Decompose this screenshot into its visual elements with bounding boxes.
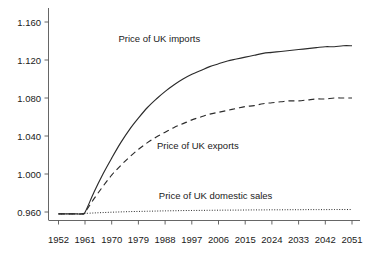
y-tick-label-0960: 0.960 [17, 207, 41, 218]
x-tick-label-2033: 2033 [288, 234, 309, 245]
x-tick-label-1979: 1979 [128, 234, 149, 245]
line-chart: 1.160 1.120 1.080 1.040 1.000 0.960 1952… [0, 0, 367, 260]
x-tick-label-1952: 1952 [48, 234, 69, 245]
chart-container: 1.160 1.120 1.080 1.040 1.000 0.960 1952… [0, 0, 367, 260]
annotation-imports: Price of UK imports [118, 33, 200, 44]
annotation-domestic-sales: Price of UK domestic sales [159, 190, 273, 201]
y-tick-label-1120: 1.120 [17, 55, 41, 66]
annotation-exports: Price of UK exports [157, 140, 239, 151]
series-line-domestic-sales [59, 210, 353, 214]
x-tick-label-1997: 1997 [181, 234, 202, 245]
y-tick-label-1000: 1.000 [17, 169, 41, 180]
x-tick-label-2051: 2051 [341, 234, 362, 245]
x-tick-label-1970: 1970 [101, 234, 122, 245]
x-tick-label-2006: 2006 [208, 234, 229, 245]
x-tick-label-2042: 2042 [315, 234, 336, 245]
x-tick-label-2015: 2015 [235, 234, 256, 245]
x-tick-label-1988: 1988 [155, 234, 176, 245]
y-tick-label-1040: 1.040 [17, 131, 41, 142]
y-tick-label-1160: 1.160 [17, 17, 41, 28]
y-tick-label-1080: 1.080 [17, 93, 41, 104]
x-tick-label-1961: 1961 [74, 234, 95, 245]
x-tick-label-2024: 2024 [261, 234, 282, 245]
